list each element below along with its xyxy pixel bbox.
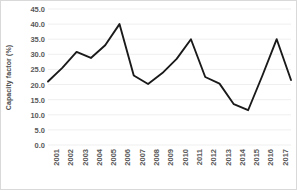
x-axis-tick-labels: 2001200220032004200520062007200820092010… bbox=[48, 147, 291, 190]
y-tick-label: 0.0 bbox=[35, 141, 45, 150]
x-tick-label-text: 2013 bbox=[224, 149, 233, 166]
x-tick-label-text: 2017 bbox=[281, 149, 290, 166]
y-tick-label: 15.0 bbox=[30, 95, 45, 104]
series-line-capacity-factor bbox=[48, 24, 291, 110]
x-tick-label-text: 2014 bbox=[238, 149, 247, 166]
x-tick-label-text: 2002 bbox=[66, 149, 75, 166]
y-tick-label: 5.0 bbox=[35, 125, 45, 134]
gridlines bbox=[48, 9, 291, 145]
y-tick-label: 10.0 bbox=[30, 110, 45, 119]
x-tick-label-text: 2005 bbox=[109, 149, 118, 166]
x-tick-label-text: 2018 bbox=[295, 149, 297, 166]
plot-svg bbox=[48, 9, 291, 145]
x-tick-label-text: 2011 bbox=[195, 149, 204, 165]
y-axis-title-text: Capacity factor (%) bbox=[6, 44, 13, 109]
y-tick-label: 35.0 bbox=[30, 35, 45, 44]
capacity-factor-line-chart: Capacity factor (%) 45.040.035.030.025.0… bbox=[0, 0, 297, 190]
x-tick-label-text: 2008 bbox=[152, 149, 161, 166]
plot-area bbox=[48, 9, 291, 145]
x-tick-label-text: 2006 bbox=[123, 149, 132, 166]
x-tick-label-text: 2003 bbox=[81, 149, 90, 166]
y-tick-label: 30.0 bbox=[30, 50, 45, 59]
x-tick-label-text: 2001 bbox=[52, 149, 61, 166]
x-tick-label-text: 2012 bbox=[209, 149, 218, 166]
y-tick-label: 25.0 bbox=[30, 65, 45, 74]
y-tick-label: 40.0 bbox=[30, 20, 45, 29]
y-axis-tick-labels: 45.040.035.030.025.020.015.010.05.00.0 bbox=[17, 1, 47, 153]
x-tick-label-text: 2010 bbox=[181, 149, 190, 166]
x-tick-label-text: 2016 bbox=[266, 149, 275, 166]
y-tick-label: 20.0 bbox=[30, 80, 45, 89]
y-axis-title: Capacity factor (%) bbox=[1, 1, 17, 153]
x-tick-label-text: 2004 bbox=[95, 149, 104, 166]
y-tick-label: 45.0 bbox=[30, 5, 45, 14]
x-tick-label-text: 2015 bbox=[252, 149, 261, 166]
x-tick-label-text: 2007 bbox=[138, 149, 147, 166]
x-tick-label-text: 2009 bbox=[166, 149, 175, 166]
